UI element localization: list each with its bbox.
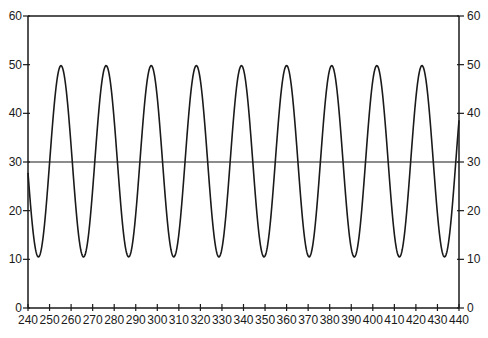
- y-right-tick-label: 10: [467, 252, 481, 266]
- x-tick-label: 270: [83, 313, 103, 327]
- y-right-tick-label: 20: [467, 204, 481, 218]
- x-tick-label: 390: [341, 313, 361, 327]
- x-tick-label: 300: [147, 313, 167, 327]
- x-tick-label: 430: [427, 313, 447, 327]
- y-right-tick-label: 0: [467, 301, 474, 315]
- x-tick-label: 330: [212, 313, 232, 327]
- y-left-tick-label: 50: [9, 58, 23, 72]
- x-tick-label: 370: [298, 313, 318, 327]
- y-left-tick-label: 60: [9, 9, 23, 23]
- y-axis-left-ticks: 0102030405060: [9, 9, 30, 315]
- x-tick-label: 400: [363, 313, 383, 327]
- y-right-tick-label: 40: [467, 106, 481, 120]
- x-tick-label: 290: [126, 313, 146, 327]
- x-tick-label: 340: [233, 313, 253, 327]
- x-tick-label: 260: [61, 313, 81, 327]
- y-axis-right-ticks: 0102030405060: [457, 9, 481, 315]
- x-tick-label: 280: [104, 313, 124, 327]
- x-tick-label: 380: [320, 313, 340, 327]
- y-left-tick-label: 0: [15, 301, 22, 315]
- y-left-tick-label: 10: [9, 252, 23, 266]
- x-tick-label: 240: [18, 313, 38, 327]
- y-left-tick-label: 20: [9, 204, 23, 218]
- x-tick-label: 440: [449, 313, 469, 327]
- x-tick-label: 350: [255, 313, 275, 327]
- x-tick-label: 320: [190, 313, 210, 327]
- oscillation-series-line: [28, 66, 459, 257]
- x-tick-label: 310: [169, 313, 189, 327]
- y-left-tick-label: 40: [9, 106, 23, 120]
- line-chart: 2402502602702802903003103203303403503603…: [0, 0, 488, 338]
- y-right-tick-label: 50: [467, 58, 481, 72]
- x-tick-label: 250: [40, 313, 60, 327]
- y-right-tick-label: 60: [467, 9, 481, 23]
- x-tick-label: 410: [384, 313, 404, 327]
- y-left-tick-label: 30: [9, 155, 23, 169]
- x-tick-label: 360: [277, 313, 297, 327]
- x-tick-label: 420: [406, 313, 426, 327]
- y-right-tick-label: 30: [467, 155, 481, 169]
